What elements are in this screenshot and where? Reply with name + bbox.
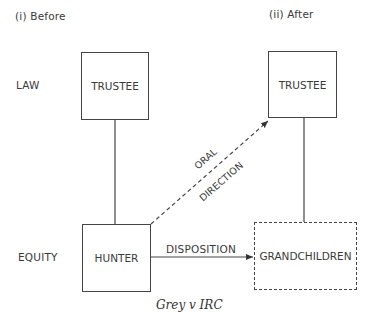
node-hunter: HUNTER: [82, 224, 151, 292]
node-trustee-after-label: TRUSTEE: [279, 79, 327, 91]
node-hunter-label: HUNTER: [95, 252, 139, 264]
figure-caption: Grey v IRC: [156, 298, 223, 312]
node-trustee-before-label: TRUSTEE: [91, 80, 139, 92]
node-trustee-after: TRUSTEE: [268, 51, 337, 118]
node-grandchildren-label: GRANDCHILDREN: [259, 250, 351, 262]
edge-label-disposition: DISPOSITION: [166, 243, 236, 255]
node-grandchildren: GRANDCHILDREN: [254, 222, 357, 290]
node-trustee-before: TRUSTEE: [81, 52, 149, 120]
oral-direction-arrow: [151, 121, 268, 224]
